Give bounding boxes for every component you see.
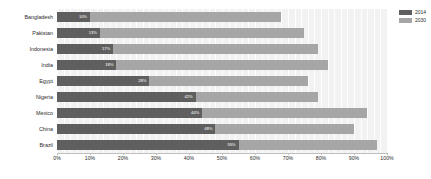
x-tick-mark bbox=[123, 153, 124, 155]
x-tick-mark bbox=[57, 153, 58, 155]
x-tick-label: 80% bbox=[316, 155, 326, 161]
bar-segment-2030 bbox=[202, 108, 367, 118]
bar-segment-2030 bbox=[90, 12, 281, 22]
bar-value-label: 44% bbox=[191, 111, 199, 115]
x-tick-label: 40% bbox=[184, 155, 194, 161]
bar-segment-2030 bbox=[149, 76, 307, 86]
bar-segment-2030 bbox=[116, 60, 327, 70]
bar-segment-2030 bbox=[196, 92, 318, 102]
bar-segment-2014: 10% bbox=[57, 12, 90, 22]
bar-segment-2030 bbox=[100, 28, 305, 38]
x-tick-mark bbox=[90, 153, 91, 155]
bar-segment-2030 bbox=[113, 44, 318, 54]
bar-segment-2014: 17% bbox=[57, 44, 113, 54]
bar-value-label: 42% bbox=[185, 95, 193, 99]
plot-area: 10%13%17%18%28%42%44%48%55% bbox=[57, 9, 387, 153]
x-tick-label: 90% bbox=[349, 155, 359, 161]
x-tick-label: 0% bbox=[53, 155, 61, 161]
bar-value-label: 17% bbox=[102, 47, 110, 51]
bar-segment-2014: 28% bbox=[57, 76, 149, 86]
bar-rows: 10%13%17%18%28%42%44%48%55% bbox=[57, 9, 387, 153]
category-label: Bangladesh bbox=[25, 12, 53, 22]
bar-value-label: 13% bbox=[89, 31, 97, 35]
bar-value-label: 28% bbox=[138, 79, 146, 83]
bar-segment-2014: 13% bbox=[57, 28, 100, 38]
bar-row: 55% bbox=[57, 140, 387, 150]
bar-segment-2014: 44% bbox=[57, 108, 202, 118]
legend-swatch-icon bbox=[399, 18, 412, 23]
x-tick-mark bbox=[156, 153, 157, 155]
category-label: Pakistan bbox=[32, 28, 53, 38]
bar-segment-2014: 18% bbox=[57, 60, 116, 70]
bar-row: 13% bbox=[57, 28, 387, 38]
x-tick-mark bbox=[222, 153, 223, 155]
legend-2014[interactable]: 2014 bbox=[399, 9, 426, 15]
x-tick-mark bbox=[288, 153, 289, 155]
bar-value-label: 48% bbox=[204, 127, 212, 131]
x-tick-mark bbox=[255, 153, 256, 155]
x-tick-label: 20% bbox=[118, 155, 128, 161]
legend-2030[interactable]: 2030 bbox=[399, 17, 426, 23]
x-axis-tick-labels: 0%10%20%30%40%50%60%70%80%90%100% bbox=[57, 155, 387, 167]
bar-row: 48% bbox=[57, 124, 387, 134]
x-tick-label: 50% bbox=[217, 155, 227, 161]
category-label: Brazil bbox=[40, 140, 53, 150]
category-label: Egypt bbox=[39, 76, 53, 86]
bar-segment-2014: 55% bbox=[57, 140, 239, 150]
x-tick-label: 100% bbox=[380, 155, 393, 161]
bar-segment-2030 bbox=[239, 140, 378, 150]
x-tick-mark bbox=[321, 153, 322, 155]
x-tick-mark bbox=[354, 153, 355, 155]
bar-segment-2014: 42% bbox=[57, 92, 196, 102]
x-tick-label: 70% bbox=[283, 155, 293, 161]
stacked-bar-chart: BangladeshPakistanIndonesiaIndiaEgyptNig… bbox=[0, 0, 431, 179]
legend-label: 2030 bbox=[415, 17, 426, 23]
category-label: Indonesia bbox=[30, 44, 53, 54]
bar-row: 28% bbox=[57, 76, 387, 86]
bar-value-label: 55% bbox=[227, 143, 235, 147]
x-tick-label: 30% bbox=[151, 155, 161, 161]
x-tick-label: 60% bbox=[250, 155, 260, 161]
x-tick-label: 10% bbox=[85, 155, 95, 161]
category-label: Mexico bbox=[36, 108, 53, 118]
category-axis-labels: BangladeshPakistanIndonesiaIndiaEgyptNig… bbox=[0, 9, 53, 153]
category-label: China bbox=[39, 124, 53, 134]
x-tick-mark bbox=[387, 153, 388, 155]
bar-segment-2014: 48% bbox=[57, 124, 215, 134]
bar-segment-2030 bbox=[215, 124, 354, 134]
category-label: India bbox=[41, 60, 53, 70]
bar-value-label: 10% bbox=[79, 15, 87, 19]
chart-legend: 20142030 bbox=[397, 8, 428, 24]
bar-row: 44% bbox=[57, 108, 387, 118]
legend-label: 2014 bbox=[415, 9, 426, 15]
bar-row: 42% bbox=[57, 92, 387, 102]
x-tick-mark bbox=[189, 153, 190, 155]
bar-row: 17% bbox=[57, 44, 387, 54]
gridline bbox=[387, 9, 388, 153]
bar-row: 18% bbox=[57, 60, 387, 70]
bar-row: 10% bbox=[57, 12, 387, 22]
category-label: Nigeria bbox=[36, 92, 53, 102]
legend-swatch-icon bbox=[399, 10, 412, 15]
bar-value-label: 18% bbox=[105, 63, 113, 67]
